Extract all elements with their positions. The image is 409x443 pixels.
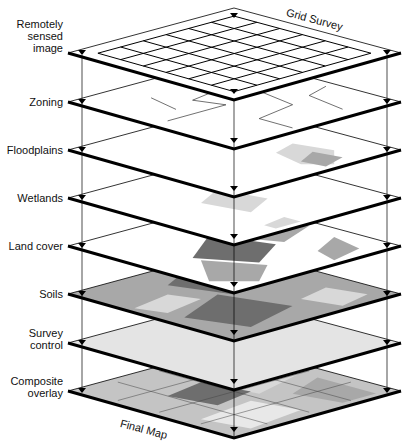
layer-label-wetlands: Wetlands (17, 192, 63, 204)
layer-label-soils: Soils (39, 288, 63, 300)
layer-label-composite-overlay: Composite overlay (10, 375, 63, 399)
layer-0 (68, 8, 401, 100)
layer-label-remotely-sensed-image: Remotely sensed image (17, 18, 63, 54)
layer-label-survey-control: Survey control (29, 327, 63, 351)
layer-label-floodplains: Floodplains (7, 144, 63, 156)
layer-label-land-cover: Land cover (9, 240, 63, 252)
layer-label-zoning: Zoning (29, 96, 63, 108)
